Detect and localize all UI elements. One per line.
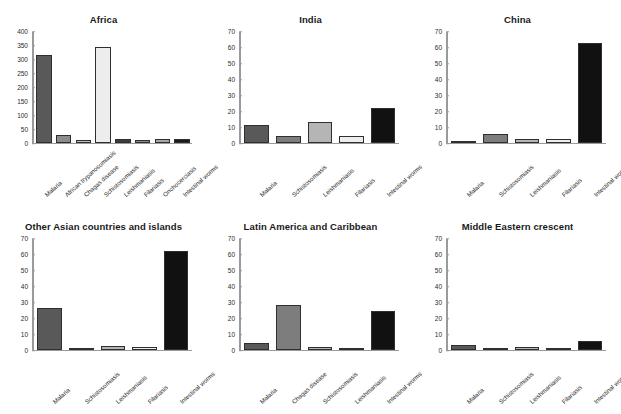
x-axis-line	[32, 143, 192, 145]
bar-slot	[304, 239, 336, 350]
panel-title: Other Asian countries and islands	[0, 221, 207, 232]
bar	[339, 136, 364, 142]
y-axis-tick-label: 150	[17, 99, 32, 106]
y-axis-tick-label: 60	[435, 252, 446, 259]
y-axis-tick-label: 0	[438, 141, 446, 148]
chart-panel: China010203040506070MalariaSchistosomias…	[414, 0, 621, 207]
bar	[164, 251, 189, 350]
x-axis-tick-label: Schistosomiasis	[103, 193, 107, 198]
bar	[155, 139, 170, 142]
panel-title: India	[207, 14, 414, 25]
y-axis-tick-label: 0	[231, 141, 239, 148]
y-axis-tick-label: 50	[435, 268, 446, 275]
bar-slot	[336, 32, 368, 143]
bar-slot	[574, 32, 606, 143]
panel-title: Africa	[0, 14, 207, 25]
x-axis-line	[446, 143, 606, 145]
bar-slot	[241, 239, 273, 350]
bar-slot	[160, 239, 192, 350]
plot-area: 010203040506070	[239, 32, 399, 144]
bar-slot	[304, 32, 336, 143]
bar	[56, 135, 71, 142]
y-axis-tick-label: 10	[228, 125, 239, 132]
bar-slot	[273, 32, 305, 143]
y-axis-tick-label: 30	[21, 300, 32, 307]
panel-title: Latin America and Caribbean	[207, 221, 414, 232]
bar-slot	[54, 32, 74, 143]
x-axis-tick-label: Leishmaniasis	[529, 400, 533, 405]
bar-group	[241, 239, 399, 350]
x-axis-tick-label: Filariasis	[561, 193, 565, 198]
bar-group	[241, 32, 399, 143]
bar-slot	[97, 239, 129, 350]
chart-panel: Africa050100150200250300350400MalariaAfr…	[0, 0, 207, 207]
bar	[483, 348, 508, 350]
chart-panel: Latin America and Caribbean0102030405060…	[207, 207, 414, 414]
chart-panel: Middle Eastern crescent010203040506070Ma…	[414, 207, 621, 414]
y-axis-tick-label: 40	[228, 77, 239, 84]
bar	[578, 341, 603, 350]
bar-slot	[34, 32, 54, 143]
x-axis-tick-label: Chagas disease	[291, 400, 295, 405]
bar	[132, 347, 157, 349]
plot-area: 050100150200250300350400	[32, 32, 192, 144]
bar	[115, 139, 130, 142]
bar	[174, 139, 189, 143]
y-axis-tick-label: 30	[435, 300, 446, 307]
bar-slot	[66, 239, 98, 350]
y-axis-tick-mark	[239, 351, 242, 352]
y-axis-tick-label: 50	[228, 268, 239, 275]
y-axis-tick-label: 30	[228, 300, 239, 307]
x-axis-tick-label: Malaria	[259, 193, 263, 198]
bar-slot	[34, 239, 66, 350]
bar-slot	[543, 32, 575, 143]
bar	[244, 343, 269, 349]
plot-area: 010203040506070	[239, 239, 399, 351]
y-axis-tick-label: 20	[228, 109, 239, 116]
bar-slot	[480, 239, 512, 350]
bar-slot	[273, 239, 305, 350]
y-axis-tick-label: 50	[21, 268, 32, 275]
y-axis-tick-label: 0	[438, 348, 446, 355]
y-axis-tick-label: 250	[17, 71, 32, 78]
plot-area: 010203040506070	[32, 239, 192, 351]
x-axis-line	[239, 350, 399, 352]
x-axis-labels: MalariaSchistosomiasisLeishmaniasisFilar…	[448, 146, 606, 204]
x-axis-labels: MalariaChagas diseaseSchistosomiasisLeis…	[241, 353, 399, 411]
bar-slot	[448, 239, 480, 350]
x-axis-tick-label: Intestinal worms	[178, 400, 182, 405]
bar-slot	[574, 239, 606, 350]
panel-title: China	[414, 14, 621, 25]
x-axis-tick-label: Leishmaniasis	[123, 193, 127, 198]
y-axis-tick-mark	[32, 351, 35, 352]
y-axis-tick-label: 40	[228, 284, 239, 291]
x-axis-tick-label: Schistosomiasis	[84, 400, 88, 405]
y-axis-tick-label: 20	[228, 316, 239, 323]
bar	[308, 122, 333, 143]
y-axis-tick-label: 0	[24, 348, 32, 355]
y-axis-tick-label: 70	[228, 29, 239, 36]
x-axis-tick-label: Leishmaniasis	[354, 400, 358, 405]
y-axis-tick-label: 60	[435, 45, 446, 52]
y-axis-tick-mark	[239, 144, 242, 145]
bar	[483, 134, 508, 143]
y-axis-tick-label: 70	[435, 29, 446, 36]
x-axis-tick-label: Filariasis	[354, 193, 358, 198]
y-axis-tick-label: 30	[228, 93, 239, 100]
x-axis-tick-label: Schistosomiasis	[498, 193, 502, 198]
y-axis-tick-label: 100	[17, 113, 32, 120]
x-axis-tick-label: Intestinal worms	[592, 400, 596, 405]
bar	[135, 140, 150, 142]
x-axis-line	[239, 143, 399, 145]
y-axis-tick-label: 70	[228, 236, 239, 243]
bar	[308, 347, 333, 349]
bar	[276, 305, 301, 350]
y-axis-tick-label: 60	[21, 252, 32, 259]
bar	[37, 308, 62, 350]
x-axis-tick-label: Filariasis	[142, 193, 146, 198]
y-axis-tick-label: 40	[435, 284, 446, 291]
bar	[36, 55, 51, 142]
x-axis-tick-label: Intestinal worms	[182, 193, 186, 198]
y-axis-tick-label: 40	[21, 284, 32, 291]
x-axis-tick-label: Schistosomiasis	[291, 193, 295, 198]
